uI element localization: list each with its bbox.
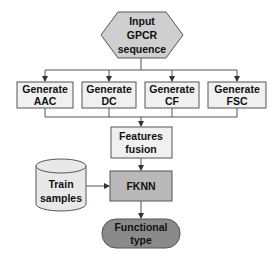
generate-dc-node: Generate DC — [82, 82, 136, 108]
flowchart: Input GPCR sequence Generate AAC Generat… — [0, 0, 279, 262]
generate-aac-node: Generate AAC — [17, 82, 73, 108]
input-label-line3: sequence — [118, 43, 167, 55]
generate-fsc-node: Generate FSC — [208, 82, 266, 108]
train-line2: samples — [40, 192, 82, 204]
functional-type-node: Functional type — [102, 219, 180, 248]
generate-fsc-line1: Generate — [214, 83, 260, 95]
generate-cf-node: Generate CF — [145, 82, 199, 108]
fusion-line1: Features — [119, 130, 163, 142]
generate-dc-line2: DC — [101, 95, 117, 107]
output-line1: Functional — [114, 221, 167, 233]
generate-cf-line1: Generate — [149, 83, 195, 95]
input-label-line1: Input — [129, 15, 155, 27]
output-line2: type — [130, 234, 152, 246]
generate-fsc-line2: FSC — [227, 95, 248, 107]
train-samples-node: Train samples — [36, 159, 86, 211]
generate-dc-line1: Generate — [86, 83, 132, 95]
input-node: Input GPCR sequence — [101, 12, 183, 58]
generate-aac-line2: AAC — [34, 95, 57, 107]
fknn-node: FKNN — [110, 171, 172, 201]
generate-aac-line1: Generate — [22, 83, 68, 95]
features-fusion-node: Features fusion — [111, 127, 172, 158]
fknn-label: FKNN — [126, 180, 155, 192]
input-label-line2: GPCR — [127, 29, 158, 41]
fusion-line2: fusion — [125, 143, 157, 155]
train-line1: Train — [48, 178, 73, 190]
generate-cf-line2: CF — [165, 95, 180, 107]
